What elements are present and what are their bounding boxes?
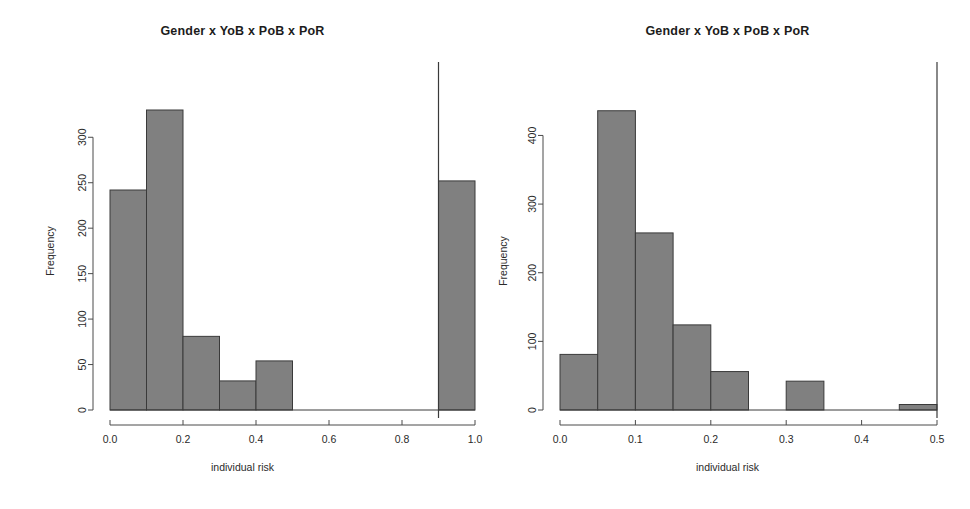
bar-group bbox=[560, 111, 937, 410]
histogram-bar bbox=[598, 111, 636, 410]
x-axis-tick-label: 0.0 bbox=[553, 433, 568, 445]
histogram-bar bbox=[635, 233, 673, 410]
histogram-bar bbox=[183, 336, 220, 410]
figure-canvas: Gender x YoB x PoB x PoR Frequency 05010… bbox=[0, 0, 970, 509]
y-axis-tick-label: 150 bbox=[76, 265, 88, 283]
x-axis-tick-label: 0.1 bbox=[628, 433, 643, 445]
left-plot-area: 0501001502002503000.00.20.40.60.81.0 bbox=[0, 0, 485, 509]
y-axis-tick-label: 250 bbox=[76, 174, 88, 192]
y-axis-tick-label: 0 bbox=[526, 407, 538, 413]
right-plot-area: 01002003004000.00.10.20.30.40.5 bbox=[485, 0, 970, 509]
y-axis-tick-label: 200 bbox=[526, 264, 538, 282]
x-axis-tick-label: 0.8 bbox=[395, 433, 410, 445]
histogram-bar bbox=[673, 325, 711, 410]
histogram-bar bbox=[256, 361, 293, 410]
x-axis-tick-label: 0.4 bbox=[249, 433, 264, 445]
x-axis-tick-label: 0.6 bbox=[322, 433, 337, 445]
histogram-bar bbox=[147, 110, 184, 410]
bar-group bbox=[110, 110, 475, 410]
x-axis-tick-label: 0.2 bbox=[703, 433, 718, 445]
x-axis-tick-label: 0.5 bbox=[930, 433, 945, 445]
y-axis-tick-label: 100 bbox=[526, 332, 538, 350]
x-axis-tick-label: 0.4 bbox=[854, 433, 869, 445]
y-axis-tick-label: 300 bbox=[76, 128, 88, 146]
right-histogram-panel: Gender x YoB x PoB x PoR Frequency 01002… bbox=[485, 0, 970, 509]
histogram-bar bbox=[786, 381, 824, 410]
left-x-axis-label: individual risk bbox=[0, 461, 485, 473]
left-histogram-panel: Gender x YoB x PoB x PoR Frequency 05010… bbox=[0, 0, 485, 509]
y-axis-tick-label: 400 bbox=[526, 127, 538, 145]
histogram-bar bbox=[220, 381, 257, 410]
y-axis-tick-label: 200 bbox=[76, 219, 88, 237]
y-axis-tick-label: 100 bbox=[76, 310, 88, 328]
histogram-bar bbox=[439, 181, 476, 410]
x-axis-tick-label: 0.2 bbox=[176, 433, 191, 445]
x-axis-tick-label: 0.3 bbox=[779, 433, 794, 445]
histogram-bar bbox=[711, 372, 749, 410]
x-axis-tick-label: 1.0 bbox=[468, 433, 483, 445]
histogram-bar bbox=[110, 190, 147, 410]
y-axis-tick-label: 300 bbox=[526, 195, 538, 213]
histogram-bar bbox=[899, 405, 937, 410]
y-axis-tick-label: 0 bbox=[76, 407, 88, 413]
right-x-axis-label: individual risk bbox=[485, 461, 970, 473]
histogram-bar bbox=[560, 354, 598, 410]
y-axis-tick-label: 50 bbox=[76, 359, 88, 371]
x-axis-tick-label: 0.0 bbox=[103, 433, 118, 445]
